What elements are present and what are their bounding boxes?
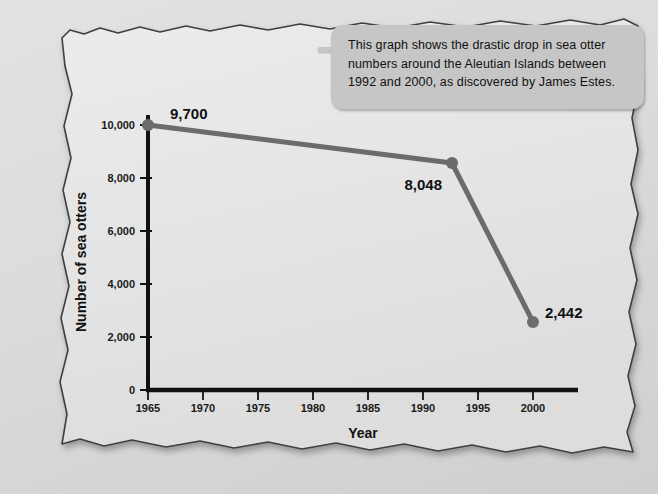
y-tick-label: 8,000 <box>107 172 135 184</box>
x-tick-label: 1965 <box>136 402 160 414</box>
data-point-label: 8,048 <box>404 176 442 193</box>
y-tick-label: 10,000 <box>101 119 135 131</box>
callout-text: This graph shows the drastic drop in sea… <box>348 36 630 92</box>
y-tick-label: 6,000 <box>107 225 135 237</box>
data-line <box>148 125 533 322</box>
data-point <box>527 316 539 328</box>
data-point <box>446 157 458 169</box>
x-tick-label: 2000 <box>521 402 545 414</box>
y-tick-label: 2,000 <box>107 331 135 343</box>
y-axis-title: Number of sea otters <box>73 192 89 332</box>
data-point <box>142 119 154 131</box>
data-point-label: 2,442 <box>545 304 583 321</box>
callout-box: This graph shows the drastic drop in sea… <box>331 25 644 109</box>
x-tick-label: 1995 <box>466 402 490 414</box>
x-tick-label: 1990 <box>411 402 435 414</box>
data-point-label: 9,700 <box>170 105 208 122</box>
y-tick-label: 4,000 <box>107 278 135 290</box>
x-axis-title: Year <box>348 425 378 441</box>
x-tick-label: 1975 <box>246 402 270 414</box>
y-tick-label: 0 <box>129 384 135 396</box>
x-tick-label: 1985 <box>356 402 380 414</box>
x-tick-label: 1970 <box>191 402 215 414</box>
x-tick-label: 1980 <box>301 402 325 414</box>
